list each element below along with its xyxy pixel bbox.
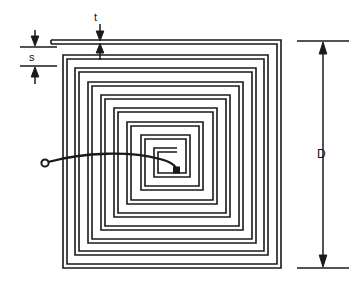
dim-s-upper-arrowhead-icon (31, 36, 39, 46)
dim-t-lower-arrowhead-icon (96, 44, 104, 54)
dimension-label-t: t (94, 12, 97, 23)
dim-D-top-arrowhead-icon (319, 42, 327, 54)
dimension-s (20, 30, 57, 84)
dim-s-lower-arrowhead-icon (31, 67, 39, 77)
dim-D-bottom-arrowhead-icon (319, 255, 327, 267)
dimension-label-s: s (29, 52, 35, 63)
outer-terminal-circle-icon (41, 159, 48, 166)
dimension-label-D: D (317, 148, 326, 160)
inner-terminal-square-icon (174, 167, 180, 173)
spiral-inductor-drawing (0, 0, 362, 288)
spiral-inductor-figure: t s D (0, 0, 362, 288)
